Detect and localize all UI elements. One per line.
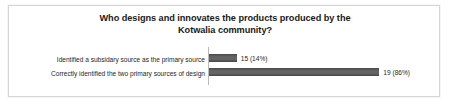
chart-title-line-2: Kotwalia community? <box>29 24 421 36</box>
bar-0[interactable] <box>209 54 237 62</box>
plot-area: Identified a subsidary source as the pri… <box>9 42 439 96</box>
category-label-1: Correctly identified the two primary sou… <box>51 68 205 79</box>
bar-track-1: 19 (86%) <box>209 67 407 78</box>
bar-value-label-1: 19 (86%) <box>383 67 410 78</box>
category-label-0: Identified a subsidary source as the pri… <box>57 54 205 65</box>
bar-row: Correctly identified the two primary sou… <box>9 67 439 80</box>
chart-title: Who designs and innovates the products p… <box>29 12 421 36</box>
chart-title-line-1: Who designs and innovates the products p… <box>29 12 421 24</box>
chart-frame: Who designs and innovates the products p… <box>8 5 440 97</box>
bar-1[interactable] <box>209 68 379 76</box>
bar-row: Identified a subsidary source as the pri… <box>9 53 439 66</box>
bar-value-label-0: 15 (14%) <box>241 53 268 64</box>
bar-track-0: 15 (14%) <box>209 53 407 64</box>
